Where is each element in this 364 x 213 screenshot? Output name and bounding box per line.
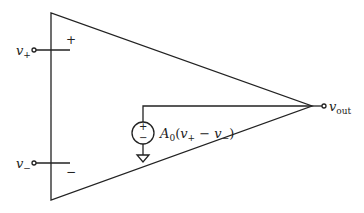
source-minus-sign: − bbox=[139, 133, 147, 143]
minus-terminal-sign: − bbox=[66, 166, 76, 178]
ground-icon bbox=[137, 155, 149, 162]
v-plus-terminal bbox=[32, 48, 36, 52]
source-expression: A0(v+ − v−) bbox=[160, 127, 234, 143]
v-out-terminal bbox=[322, 104, 326, 108]
v-minus-terminal bbox=[32, 161, 36, 165]
plus-terminal-sign: + bbox=[66, 34, 76, 46]
opamp-diagram bbox=[0, 0, 364, 213]
v-plus-label: v+ bbox=[16, 44, 31, 60]
v-out-label: vout bbox=[329, 100, 351, 116]
source-plus-sign: + bbox=[139, 122, 147, 132]
v-minus-label: v− bbox=[16, 157, 31, 173]
source-output-wire bbox=[143, 106, 312, 122]
